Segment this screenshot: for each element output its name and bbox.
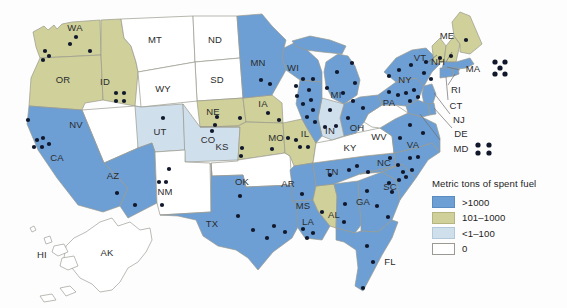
- reactor-dot: [157, 180, 161, 184]
- reactor-dot: [167, 167, 171, 171]
- reactor-dot: [416, 155, 420, 159]
- legend-swatch-low: [432, 227, 455, 239]
- legend-label-high: >1000: [462, 197, 489, 208]
- reactor-dot: [404, 91, 408, 95]
- reactor-dot: [240, 146, 244, 150]
- state-label-UT: UT: [153, 126, 166, 137]
- legend-label-low: <1–100: [462, 228, 495, 239]
- reactor-dot: [88, 49, 92, 53]
- state-label-VA: VA: [407, 139, 420, 150]
- state-NE[interactable]: [197, 98, 246, 127]
- reactor-dot: [35, 138, 39, 142]
- reactor-dot: [301, 77, 305, 81]
- legend-item-mid[interactable]: 101–1000: [432, 212, 562, 224]
- reactor-dot: [122, 99, 126, 103]
- reactor-dot: [311, 108, 315, 112]
- reactor-dot: [449, 54, 453, 58]
- reactor-dot: [371, 260, 375, 264]
- reactor-dot: [422, 71, 426, 75]
- state-label-OR: OR: [56, 74, 71, 85]
- state-label-MT: MT: [148, 34, 162, 45]
- reactor-dot: [74, 35, 78, 39]
- reactor-dot: [277, 118, 281, 122]
- state-label-OK: OK: [235, 176, 250, 187]
- reactor-dot: [122, 91, 126, 95]
- reactor-dot: [328, 108, 332, 112]
- reactor-dot: [294, 84, 298, 88]
- reactor-dot: [353, 81, 357, 85]
- state-AL[interactable]: [334, 181, 361, 233]
- state-label-IL: IL: [301, 128, 309, 139]
- state-label-CA: CA: [50, 152, 64, 163]
- reactor-dot: [342, 220, 346, 224]
- state-label-AR: AR: [281, 178, 295, 189]
- state-label-ND: ND: [208, 34, 222, 45]
- reactor-dot: [236, 214, 240, 218]
- legend-item-high[interactable]: >1000: [432, 196, 562, 208]
- state-label-NJ: NJ: [453, 114, 465, 125]
- reactor-dot: [492, 71, 497, 76]
- reactor-dot: [396, 163, 400, 167]
- reactor-dot: [286, 136, 290, 140]
- inset-shapes: [30, 218, 152, 302]
- reactor-dot: [497, 65, 502, 70]
- reactor-dot: [421, 131, 425, 135]
- reactor-dot: [366, 170, 370, 174]
- reactor-dot: [265, 236, 269, 240]
- state-label-MN: MN: [250, 57, 265, 68]
- state-label-CT: CT: [449, 100, 462, 111]
- reactor-dot: [502, 59, 507, 64]
- reactor-dot: [396, 93, 400, 97]
- reactor-dot: [464, 38, 468, 42]
- state-label-WY: WY: [155, 83, 171, 94]
- reactor-dot: [133, 203, 137, 207]
- state-label-NH: NH: [431, 56, 445, 67]
- reactor-dot: [361, 286, 365, 290]
- state-label-ME: ME: [440, 30, 455, 41]
- state-label-KY: KY: [343, 142, 357, 153]
- state-label-NC: NC: [377, 157, 391, 168]
- state-label-AK: AK: [100, 247, 114, 258]
- reactor-dot: [306, 145, 310, 149]
- reactor-dot: [238, 194, 242, 198]
- reactor-dot: [309, 98, 313, 102]
- state-CT[interactable]: [440, 68, 454, 78]
- reactor-dot: [259, 78, 263, 82]
- state-label-OH: OH: [350, 122, 365, 133]
- reactor-dot: [164, 180, 168, 184]
- legend-swatch-high: [432, 196, 455, 208]
- reactor-dot: [301, 102, 305, 106]
- state-AK[interactable]: [40, 218, 152, 302]
- state-label-NV: NV: [69, 119, 83, 130]
- state-label-CO: CO: [201, 134, 216, 145]
- reactor-dot: [311, 231, 315, 235]
- state-label-MD: MD: [453, 143, 468, 154]
- reactor-dot: [397, 178, 401, 182]
- reactor-dot: [114, 99, 118, 103]
- state-label-MO: MO: [268, 132, 284, 143]
- reactor-dot: [486, 142, 491, 147]
- legend-label-zero: 0: [462, 243, 467, 254]
- leader-CT: [446, 77, 448, 100]
- state-MI[interactable]: [324, 54, 360, 104]
- reactor-dot: [502, 71, 507, 76]
- map-svg: WA OR ID MT ND SD WY NV UT CO CA AZ NM T…: [0, 0, 567, 308]
- reactor-dot: [375, 204, 379, 208]
- reactor-dot: [43, 49, 47, 53]
- legend-title: Metric tons of spent fuel: [432, 178, 562, 189]
- reactor-dot: [365, 189, 369, 193]
- state-label-WV: WV: [371, 131, 387, 142]
- reactor-dot: [311, 77, 315, 81]
- state-label-MS: MS: [296, 200, 311, 211]
- reactor-dot: [307, 88, 311, 92]
- reactor-dot: [351, 99, 355, 103]
- state-label-NY: NY: [398, 74, 412, 85]
- us-spent-fuel-map: WA OR ID MT ND SD WY NV UT CO CA AZ NM T…: [0, 0, 567, 308]
- state-label-MI: MI: [331, 89, 342, 100]
- legend-item-low[interactable]: <1–100: [432, 227, 562, 239]
- state-label-WI: WI: [287, 62, 299, 73]
- reactor-dot: [272, 224, 276, 228]
- legend-item-zero[interactable]: 0: [432, 243, 562, 255]
- reactor-dot: [343, 202, 347, 206]
- reactor-dot: [387, 74, 391, 78]
